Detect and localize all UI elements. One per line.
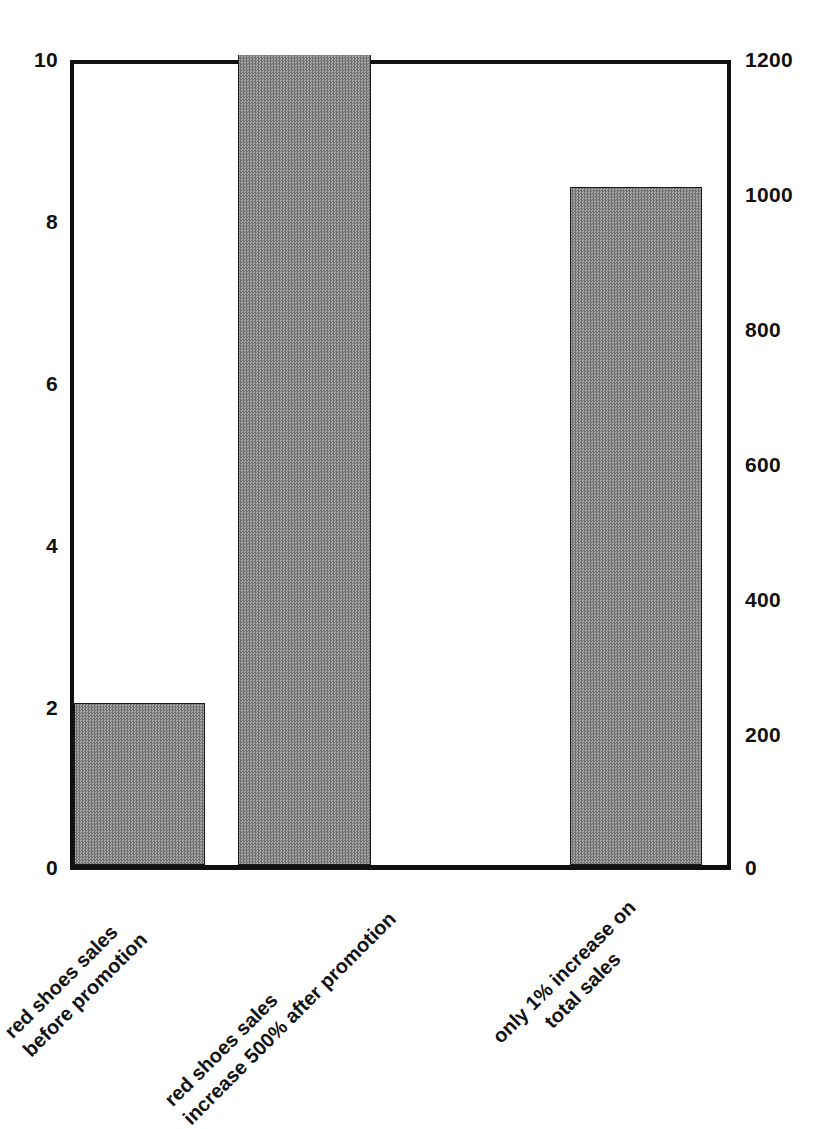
right-axis-tick-800: 800	[745, 319, 781, 340]
left-axis-tick-6: 6	[46, 373, 58, 394]
left-axis-tick-2: 2	[46, 697, 58, 718]
left-axis-tick-4: 4	[46, 535, 58, 556]
bar-only-1-percent-total-sales	[570, 187, 702, 865]
left-axis-tick-10: 10	[34, 49, 58, 70]
bar-red-shoes-after-promotion	[238, 55, 371, 865]
bar-red-shoes-before-promotion	[74, 703, 205, 865]
right-axis-tick-600: 600	[745, 454, 781, 475]
x-axis-label-only-1-percent-total-sales: only 1% increase on total sales	[487, 894, 660, 1067]
right-axis-tick-400: 400	[745, 589, 781, 610]
right-axis-tick-labels: 1200 1000 800 600 400 200 0	[745, 0, 820, 1118]
right-axis-tick-200: 200	[745, 724, 781, 745]
left-axis-tick-0: 0	[46, 857, 58, 878]
plot-inner	[74, 64, 727, 865]
plot-area	[70, 60, 731, 870]
right-axis-tick-1200: 1200	[745, 49, 793, 70]
x-axis-label-line-2: increase 500% after promotion	[177, 906, 402, 1129]
left-axis-tick-8: 8	[46, 211, 58, 232]
x-axis-label-line-1: red shoes sales	[159, 888, 384, 1113]
left-axis-tick-labels: 10 8 6 4 2 0	[0, 0, 58, 1118]
right-axis-tick-0: 0	[745, 857, 757, 878]
right-axis-tick-1000: 1000	[745, 184, 793, 205]
x-axis-label-red-shoes-after-promotion: red shoes sales increase 500% after prom…	[159, 888, 402, 1129]
